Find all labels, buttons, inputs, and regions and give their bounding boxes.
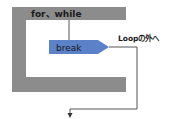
arrow-down-icon [68, 113, 73, 118]
loop-label: for、while [31, 9, 82, 19]
loop-break-diagram: for、while break Loopの外へ [0, 0, 178, 119]
break-label: break [56, 43, 82, 53]
exit-label: Loopの外へ [118, 33, 160, 43]
